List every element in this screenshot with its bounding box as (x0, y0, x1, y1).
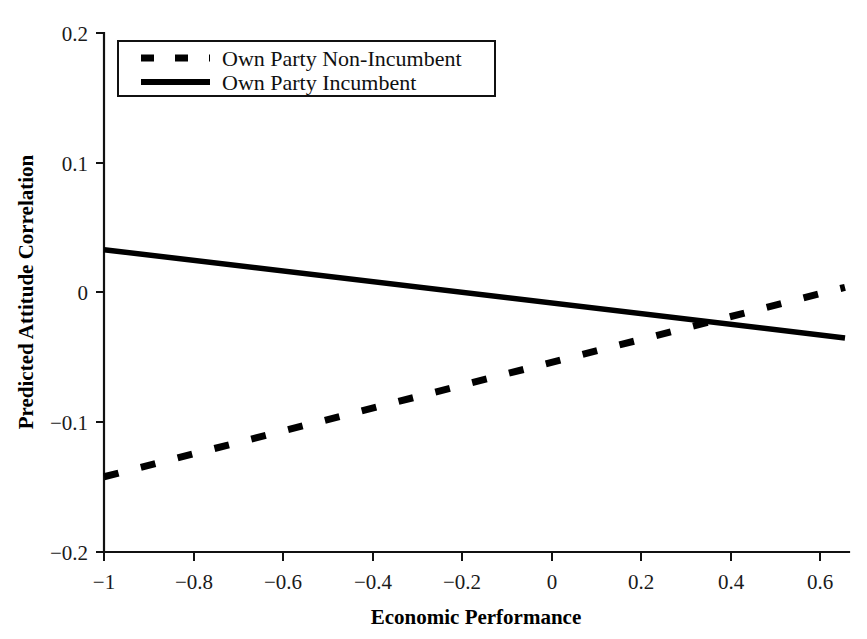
x-tick-label: −0.2 (443, 570, 481, 594)
x-tick-label: 0.2 (628, 570, 654, 594)
y-tick-label: −0.2 (50, 541, 88, 565)
y-tick-label: −0.1 (50, 411, 88, 435)
x-tick-label: 0.6 (807, 570, 833, 594)
y-tick-label: 0.2 (62, 22, 88, 46)
x-tick-label: −1 (93, 570, 115, 594)
x-tick-label: −0.4 (354, 570, 393, 594)
x-tick-label: 0.4 (718, 570, 745, 594)
chart-figure: 0.2 0.1 0 −0.1 −0.2 −1 −0.8 −0.6 −0.4 −0… (0, 0, 867, 639)
y-tick-labels: 0.2 0.1 0 −0.1 −0.2 (50, 22, 88, 565)
x-tick-label: 0 (547, 570, 558, 594)
legend-label-non-incumbent: Own Party Non-Incumbent (222, 46, 462, 71)
x-tick-marks (104, 552, 820, 561)
legend-label-incumbent: Own Party Incumbent (222, 70, 416, 95)
x-axis-title: Economic Performance (371, 605, 582, 629)
x-tick-label: −0.8 (175, 570, 213, 594)
y-tick-marks (96, 33, 104, 552)
series-line-incumbent (104, 250, 845, 338)
chart-legend: Own Party Non-Incumbent Own Party Incumb… (118, 41, 495, 96)
x-tick-label: −0.6 (264, 570, 302, 594)
y-axis-title: Predicted Attitude Correlation (14, 154, 38, 429)
series-line-non-incumbent (104, 287, 845, 476)
x-tick-labels: −1 −0.8 −0.6 −0.4 −0.2 0 0.2 0.4 0.6 (93, 570, 833, 594)
y-tick-label: 0.1 (62, 152, 88, 176)
y-tick-label: 0 (78, 281, 89, 305)
line-chart: 0.2 0.1 0 −0.1 −0.2 −1 −0.8 −0.6 −0.4 −0… (0, 0, 867, 639)
